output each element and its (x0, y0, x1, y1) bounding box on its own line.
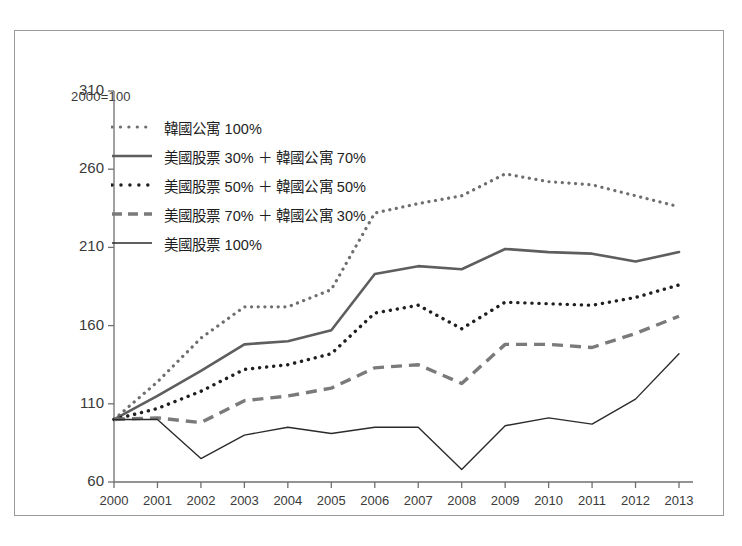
legend-swatch-solid-gray (111, 150, 153, 162)
legend-swatch-dotted-gray (111, 121, 153, 133)
x-tick-label: 2010 (527, 493, 571, 508)
legend-item-3[interactable]: 美國股票 70% ＋ 韓國公寓 30% (111, 200, 441, 228)
x-tick-label: 2000 (92, 493, 136, 508)
legend-item-2[interactable]: 美國股票 50% ＋ 韓國公寓 50% (111, 171, 441, 199)
legend-swatch-dotted-black (111, 179, 153, 191)
legend-item-0[interactable]: 韓國公寓 100% (111, 113, 441, 141)
legend-label-1: 美國股票 30% ＋ 韓國公寓 70% (164, 146, 366, 167)
legend-swatch-dashed-gray (111, 208, 153, 220)
legend-label-0: 韓國公寓 100% (164, 117, 262, 138)
x-tick-label: 2002 (179, 493, 223, 508)
series-line-1 (114, 249, 679, 419)
legend-item-1[interactable]: 美國股票 30% ＋ 韓國公寓 70% (111, 142, 441, 170)
series-line-3 (114, 316, 679, 422)
x-tick-label: 2009 (483, 493, 527, 508)
x-tick-label: 2007 (396, 493, 440, 508)
chart-page: 2000=100 韓國公寓 100% 美國股票 30% ＋ 韓國公寓 70% 美… (0, 0, 742, 546)
legend-item-4[interactable]: 美國股票 100% (111, 229, 441, 257)
y-tick-label: 210 (60, 237, 104, 254)
y-tick-label: 160 (60, 316, 104, 333)
line-chart-canvas (15, 31, 723, 515)
chart-frame: 2000=100 韓國公寓 100% 美國股票 30% ＋ 韓國公寓 70% 美… (14, 30, 724, 516)
x-tick-label: 2001 (135, 493, 179, 508)
y-tick-label: 110 (60, 394, 104, 411)
x-tick-label: 2006 (353, 493, 397, 508)
y-tick-label: 310 (60, 81, 104, 98)
x-tick-label: 2004 (266, 493, 310, 508)
x-tick-label: 2008 (440, 493, 484, 508)
legend-swatch-solid-black (111, 237, 153, 249)
x-tick-label: 2003 (222, 493, 266, 508)
x-tick-label: 2005 (309, 493, 353, 508)
legend-label-2: 美國股票 50% ＋ 韓國公寓 50% (164, 175, 366, 196)
x-tick-label: 2013 (657, 493, 701, 508)
chart-legend: 韓國公寓 100% 美國股票 30% ＋ 韓國公寓 70% 美國股票 50% ＋… (111, 113, 441, 258)
y-tick-label: 60 (60, 472, 104, 489)
y-tick-label: 260 (60, 159, 104, 176)
legend-label-4: 美國股票 100% (164, 233, 262, 254)
legend-label-3: 美國股票 70% ＋ 韓國公寓 30% (164, 204, 366, 225)
series-line-2 (114, 285, 679, 420)
x-tick-label: 2011 (570, 493, 614, 508)
x-tick-label: 2012 (614, 493, 658, 508)
